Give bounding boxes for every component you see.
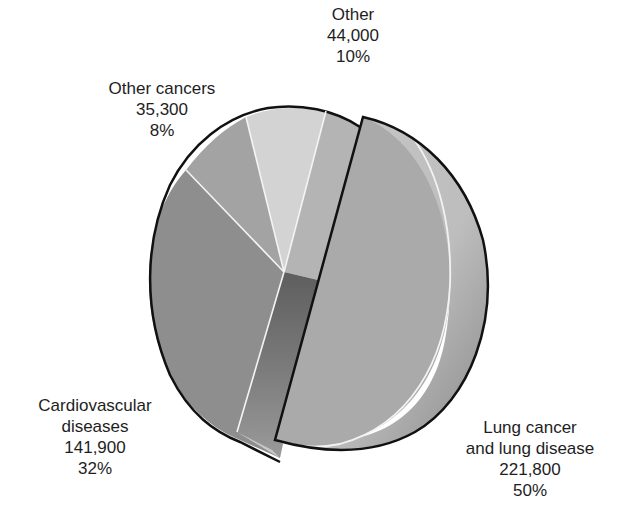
label-lung-name-1: Lung cancer — [440, 417, 620, 438]
label-other: Other 44,000 10% — [288, 4, 418, 67]
label-cardio-value: 141,900 — [20, 437, 170, 458]
label-lung: Lung cancer and lung disease 221,800 50% — [440, 417, 620, 501]
label-lung-percent: 50% — [440, 480, 620, 501]
label-cardio-name-1: Cardiovascular — [20, 395, 170, 416]
label-other-cancers-value: 35,300 — [92, 99, 232, 120]
label-lung-name-2: and lung disease — [440, 438, 620, 459]
label-other-cancers-name: Other cancers — [92, 78, 232, 99]
label-other-value: 44,000 — [288, 25, 418, 46]
label-other-percent: 10% — [288, 46, 418, 67]
label-cardio-percent: 32% — [20, 458, 170, 479]
label-lung-value: 221,800 — [440, 459, 620, 480]
label-other-name: Other — [288, 4, 418, 25]
label-other-cancers: Other cancers 35,300 8% — [92, 78, 232, 141]
label-cardio-name-2: diseases — [20, 416, 170, 437]
label-cardiovascular: Cardiovascular diseases 141,900 32% — [20, 395, 170, 479]
label-other-cancers-percent: 8% — [92, 120, 232, 141]
